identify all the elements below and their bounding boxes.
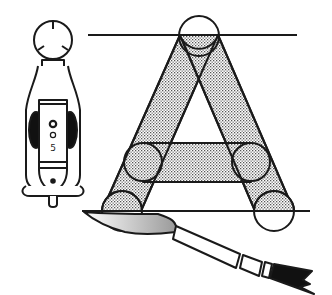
tool-mark-number: 5 [50,143,56,153]
crossbar-right-circle [232,143,270,181]
letter-a [102,16,294,231]
paint-brush [84,212,314,294]
brush-ferrule [240,255,262,276]
brush-bristles-icon [84,212,176,234]
letter-a-right-stroke [180,35,294,211]
brush-handle-end [270,264,314,294]
lettering-tool: 5 [23,21,84,207]
illustration-canvas: 5 [0,0,332,295]
brush-handle [173,226,240,268]
